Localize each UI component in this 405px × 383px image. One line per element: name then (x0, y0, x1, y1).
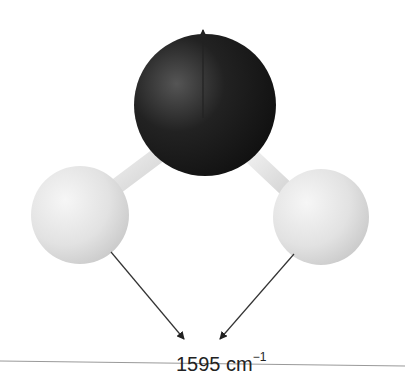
frequency-value: 1595 cm (176, 353, 253, 375)
frequency-exponent: −1 (253, 350, 267, 364)
hydrogen-atom-right (273, 169, 369, 265)
hydrogen-right-arrow-icon (220, 254, 294, 339)
hydrogen-atom-left (31, 166, 129, 264)
molecule-diagram (0, 0, 405, 383)
frequency-label: 1595 cm−1 (176, 352, 266, 376)
oxygen-atom (134, 34, 276, 176)
hydrogen-left-arrow-icon (111, 252, 184, 339)
